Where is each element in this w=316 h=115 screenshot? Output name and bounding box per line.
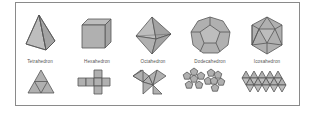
icosahedron-net-icon: [0, 0, 316, 115]
